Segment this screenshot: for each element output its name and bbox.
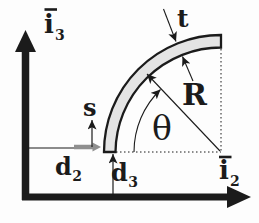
- i2-axis-arrowhead-icon: [227, 186, 251, 208]
- s-origin-gray-arrowhead-icon: [93, 143, 102, 152]
- theta-label: θ: [152, 109, 172, 148]
- thickness-label: t: [177, 4, 189, 33]
- d2-label: d2: [55, 152, 82, 184]
- i3-axis: [15, 30, 36, 200]
- radius-label: R: [182, 77, 208, 112]
- curved-beam-diagram: i3 i2 t R θ s d2 d3: [0, 0, 259, 223]
- thickness-arrow-outer: [164, 9, 177, 42]
- s-origin-gray-arrow: [74, 143, 101, 152]
- i2-axis-label: i2: [219, 155, 240, 189]
- i3-axis-arrowhead-icon: [15, 30, 36, 52]
- d3-label: d3: [111, 158, 138, 190]
- s-label: s: [83, 93, 97, 122]
- i3-axis-label: i3: [44, 9, 65, 43]
